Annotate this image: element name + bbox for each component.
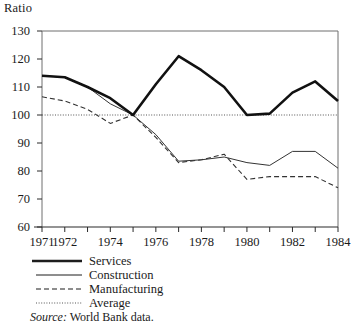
legend-label: Manufacturing (84, 283, 163, 296)
x-tick-label: 1980 (227, 236, 267, 249)
legend-item: Construction (30, 268, 330, 282)
plot-area (0, 0, 361, 250)
x-tick-label: 1984 (318, 236, 358, 249)
legend-line-icon (30, 282, 84, 296)
legend-label: Average (84, 297, 130, 310)
legend-item: Manufacturing (30, 282, 330, 296)
legend-label: Services (84, 255, 131, 268)
x-tick-label: 1982 (272, 236, 312, 249)
legend-line-icon (30, 254, 84, 268)
y-tick-label: 110 (4, 81, 30, 94)
series-line (42, 97, 338, 188)
y-tick-label: 70 (4, 193, 30, 206)
y-tick-label: 100 (4, 109, 30, 122)
y-tick-label: 90 (4, 137, 30, 150)
source-note: Source: World Bank data. (30, 310, 154, 325)
source-prefix: Source: (30, 310, 67, 324)
legend-line-icon (30, 296, 84, 310)
x-tick-label: 1976 (136, 236, 176, 249)
legend-line-icon (30, 268, 84, 282)
source-text: World Bank data. (70, 310, 154, 324)
legend-item: Average (30, 296, 330, 310)
y-tick-label: 80 (4, 165, 30, 178)
x-tick-label: 1972 (45, 236, 85, 249)
legend-item: Services (30, 254, 330, 268)
x-tick-label: 1978 (181, 236, 221, 249)
chart-figure: Ratio 60708090100110120130 1971197219741… (0, 0, 361, 325)
chart-legend: ServicesConstructionManufacturingAverage (30, 254, 330, 310)
series-line (42, 76, 338, 168)
y-tick-label: 120 (4, 53, 30, 66)
x-tick-label: 1974 (90, 236, 130, 249)
series-line (42, 56, 338, 115)
legend-label: Construction (84, 269, 154, 282)
y-tick-label: 130 (4, 25, 30, 38)
y-tick-label: 60 (4, 221, 30, 234)
